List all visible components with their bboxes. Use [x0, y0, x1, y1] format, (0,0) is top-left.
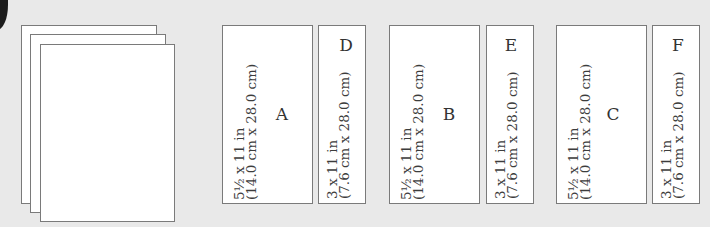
panel-d-label: D [339, 37, 353, 54]
panel-f-label: F [672, 37, 684, 54]
panel-a-dimensions: 5½ x 11 in (14.0 cm x 28.0 cm) [233, 64, 257, 200]
panel-e: E 3 x 11 in (7.6 cm x 28.0 cm) [486, 25, 534, 204]
panel-b: 5½ x 11 in (14.0 cm x 28.0 cm) B [389, 25, 480, 204]
panel-e-dimensions: 3 x 11 in (7.6 cm x 28.0 cm) [494, 71, 518, 199]
paper-sheet-front [40, 44, 175, 222]
panel-a: 5½ x 11 in (14.0 cm x 28.0 cm) A [222, 25, 313, 204]
panel-b-label: B [443, 106, 456, 123]
dimension-metric: (14.0 cm x 28.0 cm) [579, 64, 591, 200]
panel-c: 5½ x 11 in (14.0 cm x 28.0 cm) C [556, 25, 647, 204]
dimension-metric: (14.0 cm x 28.0 cm) [245, 64, 257, 200]
panel-d: D 3 x 11 in (7.6 cm x 28.0 cm) [318, 25, 366, 204]
dimension-metric: (14.0 cm x 28.0 cm) [412, 64, 424, 200]
panel-b-dimensions: 5½ x 11 in (14.0 cm x 28.0 cm) [400, 64, 424, 200]
panel-f: F 3 x 11 in (7.6 cm x 28.0 cm) [652, 25, 700, 204]
panel-a-label: A [276, 106, 288, 123]
panel-c-dimensions: 5½ x 11 in (14.0 cm x 28.0 cm) [567, 64, 591, 200]
panel-e-label: E [505, 37, 517, 54]
panel-c-label: C [606, 106, 619, 123]
panel-d-dimensions: 3 x 11 in (7.6 cm x 28.0 cm) [326, 71, 350, 199]
dimension-metric: (7.6 cm x 28.0 cm) [338, 71, 350, 199]
corner-mark [0, 0, 8, 30]
panel-f-dimensions: 3 x 11 in (7.6 cm x 28.0 cm) [660, 71, 684, 199]
dimension-metric: (7.6 cm x 28.0 cm) [672, 71, 684, 199]
dimension-metric: (7.6 cm x 28.0 cm) [506, 71, 518, 199]
